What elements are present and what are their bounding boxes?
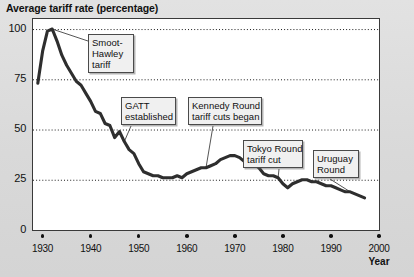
annotation-line: Smoot- — [92, 37, 130, 48]
x-tick-marker — [185, 234, 189, 238]
annotation-line: Kennedy Round — [192, 100, 258, 111]
x-tick-marker — [377, 234, 381, 238]
y-tick-100: 100 — [0, 22, 26, 34]
x-tick-marker — [281, 234, 285, 238]
x-tick-marker — [41, 234, 45, 238]
annotation-uruguay-round: UruguayRound — [313, 150, 359, 178]
annotation-line: Hawley — [92, 48, 130, 59]
annotation-line: Round — [317, 164, 355, 175]
x-tick-1960: 1960 — [167, 243, 207, 254]
x-tick-2000: 2000 — [359, 243, 399, 254]
y-tick-50: 50 — [0, 122, 26, 134]
x-tick-1930: 1930 — [23, 243, 63, 254]
annotation-line: established — [125, 111, 172, 122]
annotation-line: Uruguay — [317, 153, 355, 164]
annotation-line: GATT — [125, 100, 172, 111]
x-tick-1990: 1990 — [311, 243, 351, 254]
chart-figure: Average tariff rate (percentage) 0255075… — [0, 0, 414, 277]
y-tick-0: 0 — [0, 223, 26, 235]
gridlines — [33, 30, 379, 230]
annotation-line: tariff cuts began — [192, 111, 258, 122]
x-tick-marker — [233, 234, 237, 238]
annotation-line: tariff — [92, 59, 130, 70]
x-tick-marker — [329, 234, 333, 238]
x-tick-1970: 1970 — [215, 243, 255, 254]
annotation-kennedy-round: Kennedy Roundtariff cuts began — [188, 97, 262, 125]
x-tick-1980: 1980 — [263, 243, 303, 254]
x-tick-marker — [89, 234, 93, 238]
annotation-smoot-hawley: Smoot-Hawleytariff — [88, 34, 134, 73]
y-tick-75: 75 — [0, 72, 26, 84]
x-axis-title: Year — [359, 256, 399, 267]
page-title: Average tariff rate (percentage) — [6, 2, 158, 14]
x-tick-1950: 1950 — [119, 243, 159, 254]
annotation-tokyo-round: Tokyo Roundtariff cut — [243, 140, 303, 168]
y-tick-25: 25 — [0, 172, 26, 184]
annotation-line: tariff cut — [247, 154, 299, 165]
annotation-line: Tokyo Round — [247, 143, 299, 154]
annotation-gatt-established: GATTestablished — [121, 97, 176, 125]
x-tick-1940: 1940 — [71, 243, 111, 254]
